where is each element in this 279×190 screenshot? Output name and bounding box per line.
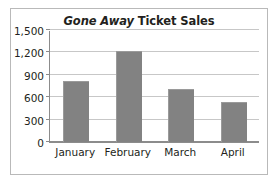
bar-april[interactable] [221, 102, 247, 142]
chart-title: Gone Away Ticket Sales [11, 15, 267, 28]
y-axis-tick-label: 1,200 [8, 48, 44, 58]
x-axis-tick-labels: JanuaryFebruaryMarchApril [49, 145, 259, 163]
bar-slot [155, 31, 208, 142]
x-axis-tick-label: February [102, 145, 155, 159]
x-axis-tick-label: January [49, 145, 102, 159]
y-axis-tick-mark [46, 29, 50, 30]
chart-title-suffix: Ticket Sales [134, 14, 215, 28]
x-axis-tick-label: April [207, 145, 260, 159]
chart-figure-frame: Gone Away Ticket Sales 1,5001,2009006003… [10, 8, 268, 175]
y-axis-tick-label: 0 [8, 138, 44, 148]
gridline [50, 29, 259, 30]
y-axis-tick-label: 600 [8, 93, 44, 103]
plot-area [49, 31, 259, 143]
bar-slot [103, 31, 156, 142]
y-axis-tick-labels: 1,5001,2009006003000 [11, 31, 44, 143]
bar-march[interactable] [168, 89, 194, 142]
bar-slot [50, 31, 103, 142]
y-axis-tick-label: 900 [8, 71, 44, 81]
bar-january[interactable] [63, 81, 89, 142]
x-axis-tick-label: March [154, 145, 207, 159]
chart-title-show-name: Gone Away [64, 14, 134, 28]
y-axis-tick-label: 1,500 [8, 26, 44, 36]
bar-february[interactable] [116, 51, 142, 142]
y-axis-tick-label: 300 [8, 116, 44, 126]
bar-slot [208, 31, 261, 142]
